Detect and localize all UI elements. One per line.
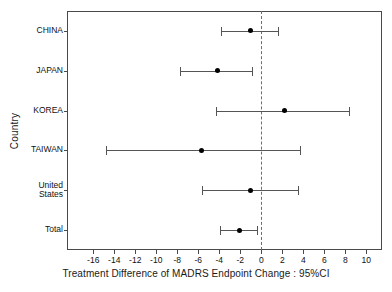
ci-upper-cap <box>298 186 299 195</box>
y-axis-tick-mark <box>64 190 67 191</box>
y-axis-tick-label: United States <box>3 181 63 199</box>
ci-upper-cap <box>349 107 350 116</box>
x-axis-tick-mark <box>114 250 115 254</box>
ci-lower-cap <box>106 146 107 155</box>
ci-upper-cap <box>252 67 253 76</box>
y-axis-tick-label: TAIWAN <box>3 145 63 154</box>
estimate-point <box>248 188 253 193</box>
ci-lower-cap <box>220 226 221 235</box>
x-axis-tick-mark <box>345 250 346 254</box>
y-axis-tick-mark <box>64 230 67 231</box>
plot-area <box>67 11 382 250</box>
x-axis-tick-mark <box>303 250 304 254</box>
x-axis-tick-mark <box>261 250 262 254</box>
y-axis-tick-mark <box>64 111 67 112</box>
ci-upper-cap <box>300 146 301 155</box>
x-axis-tick-mark <box>324 250 325 254</box>
x-axis-tick-mark <box>366 250 367 254</box>
ci-upper-cap <box>257 226 258 235</box>
x-axis-tick-mark <box>135 250 136 254</box>
ci-lower-cap <box>202 186 203 195</box>
x-axis-tick-mark <box>156 250 157 254</box>
x-axis-tick-mark <box>198 250 199 254</box>
ci-lower-cap <box>180 67 181 76</box>
y-axis-tick-mark <box>64 31 67 32</box>
y-axis-tick-label: JAPAN <box>3 66 63 75</box>
y-axis-tick-mark <box>64 71 67 72</box>
x-axis-tick-mark <box>240 250 241 254</box>
x-axis-tick-mark <box>177 250 178 254</box>
estimate-point <box>237 228 242 233</box>
y-axis-tick-label: Total <box>3 225 63 234</box>
x-axis-tick-mark <box>219 250 220 254</box>
y-axis-tick-mark <box>64 150 67 151</box>
y-axis-tick-label: KOREA <box>3 106 63 115</box>
estimate-point <box>199 148 204 153</box>
forest-plot-figure: Country CHINAJAPANKOREATAIWANUnited Stat… <box>0 0 392 292</box>
estimate-point <box>282 108 287 113</box>
x-axis-tick-mark <box>282 250 283 254</box>
ci-lower-cap <box>221 27 222 36</box>
estimate-point <box>215 68 220 73</box>
ci-upper-cap <box>278 27 279 36</box>
y-axis-tick-label: CHINA <box>3 26 63 35</box>
ci-lower-cap <box>216 107 217 116</box>
zero-reference-line <box>261 11 262 250</box>
y-axis-title: Country <box>9 112 20 148</box>
x-axis-tick-mark <box>93 250 94 254</box>
x-axis-title: Treatment Difference of MADRS Endpoint C… <box>0 268 392 279</box>
x-axis-tick-label: 10 <box>354 255 378 265</box>
